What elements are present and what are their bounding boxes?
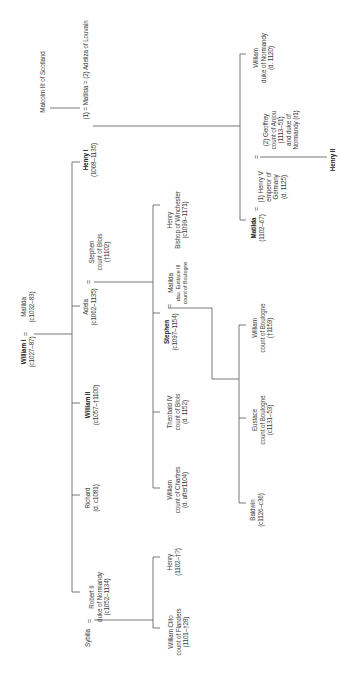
person-eustace: Eustace count of Boulogne (c1131–53) xyxy=(251,395,274,444)
marriage-symbol: = xyxy=(253,155,260,159)
person-matilda-flanders: Matilda (c1032–83) xyxy=(20,292,35,323)
person-william-ii: William II (c1057–†1100) xyxy=(84,385,99,426)
person-empress-matilda: Matilda (1102–67) xyxy=(250,214,265,241)
person-henry-v: (1) Henry V emperor of Germany (d. 1125) xyxy=(257,171,287,202)
marriage-symbol: = xyxy=(253,207,260,211)
person-malcolm: Malcolm III of Scotland xyxy=(39,51,47,112)
person-henry-winchester: Henry Bishop of Winchester (c1099–1171) xyxy=(166,191,189,249)
person-henry-i: Henry I (1068–1135) xyxy=(82,143,97,177)
person-henry-ii: Henry II xyxy=(329,149,337,171)
person-richard: Richard (d. c1081) xyxy=(84,484,99,511)
person-stephen-king: Stephen (c1097–1154) xyxy=(163,313,178,350)
person-william-chartres: William count of Chartres (d. after1104) xyxy=(166,467,189,514)
marriage-symbol: = xyxy=(22,332,29,336)
person-william-i: William I (c1027–87) xyxy=(20,337,35,368)
person-baldwin: Baldwin (c1126–c36) xyxy=(249,493,264,526)
person-stephen-blois: Stephen count of Blois (†1102) xyxy=(88,234,111,270)
person-theobald-iv: Theobald IV count of Blois (d. 1152) xyxy=(166,394,189,430)
marriage-symbol: = xyxy=(166,304,173,308)
person-william-boulogne: William count of Boulogne (†1159) xyxy=(251,303,274,352)
marriage-symbol: = xyxy=(85,280,92,284)
marriage-symbol: = xyxy=(86,619,93,623)
person-sybilla: Sybilla xyxy=(84,629,92,647)
person-robert-ii: Robert II duke of Normandy (c1052–1134) xyxy=(88,572,111,622)
person-geoffrey: (2) Geoffrey count of Anjou (1113–51) an… xyxy=(262,110,300,149)
person-henry-son-of-robert: Henry (1102–†?) xyxy=(166,548,181,575)
person-matilda-scotland: (1) = Matilda = (2) Adeliza of Louvain xyxy=(82,20,90,119)
person-adela: Adela (c1062–1135) xyxy=(82,288,97,325)
person-william-normandy: William duke of Normandy (d. 1120) xyxy=(252,33,275,83)
person-william-clito: William Clito count of Flanders (1101–†2… xyxy=(167,609,190,656)
person-matilda-boulogne: Matilda dau. Eustace III count of Boulog… xyxy=(167,262,190,305)
